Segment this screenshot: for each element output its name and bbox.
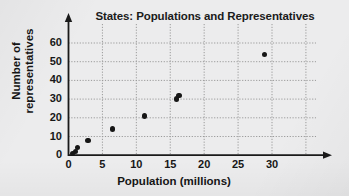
y-axis-title-line-2: representatives bbox=[23, 11, 36, 131]
data-point-5 bbox=[142, 113, 147, 118]
x-axis-title: Population (millions) bbox=[64, 175, 284, 187]
data-point-8 bbox=[262, 52, 267, 57]
y-tick-60: 60 bbox=[40, 36, 62, 48]
x-tick-5: 5 bbox=[91, 158, 113, 170]
x-tick-25: 25 bbox=[227, 158, 249, 170]
y-tick-50: 50 bbox=[40, 55, 62, 67]
y-axis-title: Number of representatives bbox=[10, 11, 36, 131]
y-tick-40: 40 bbox=[40, 73, 62, 85]
chart-canvas: 0102030405060 051015202530 States: Popul… bbox=[0, 0, 349, 196]
x-tick-0: 0 bbox=[58, 158, 80, 170]
data-point-2 bbox=[75, 145, 80, 150]
y-tick-20: 20 bbox=[40, 111, 62, 123]
x-tick-30: 30 bbox=[261, 158, 283, 170]
x-tick-15: 15 bbox=[159, 158, 181, 170]
scatter-plot-screenshot: 0102030405060 051015202530 States: Popul… bbox=[0, 0, 349, 196]
data-point-3 bbox=[85, 138, 90, 143]
chart-title: States: Populations and Representatives bbox=[74, 10, 336, 22]
data-point-4 bbox=[110, 126, 115, 131]
y-tick-10: 10 bbox=[40, 130, 62, 142]
x-tick-20: 20 bbox=[193, 158, 215, 170]
x-tick-10: 10 bbox=[125, 158, 147, 170]
y-axis-title-line-1: Number of bbox=[10, 11, 23, 131]
y-tick-30: 30 bbox=[40, 92, 62, 104]
data-point-7 bbox=[176, 93, 181, 98]
